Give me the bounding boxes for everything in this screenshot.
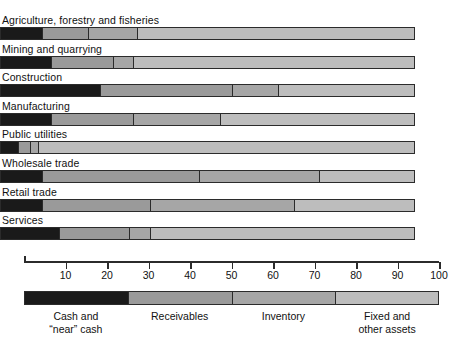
- bar-category-label: Services: [2, 214, 43, 226]
- legend-label-line1: Fixed and: [359, 310, 416, 323]
- x-axis-tick-label: 10: [60, 269, 72, 281]
- bar-segment-1: [42, 200, 149, 211]
- x-axis-tick-label: 40: [184, 269, 196, 281]
- legend-label-2: Inventory: [262, 310, 305, 323]
- bar-category-label: Retail trade: [2, 186, 57, 198]
- bar-row: [0, 141, 415, 154]
- bar-category-label: Manufacturing: [2, 100, 70, 112]
- bar-segment-3: [220, 114, 414, 125]
- bar-segment-1: [42, 28, 87, 39]
- bar-segment-2: [150, 200, 295, 211]
- bar-segment-0: [1, 114, 51, 125]
- bar-category-label: Agriculture, forestry and fisheries: [2, 14, 159, 26]
- x-axis-tick-label: 100: [430, 269, 448, 281]
- x-axis-tick: [107, 262, 109, 269]
- bar-category-label: Construction: [2, 71, 62, 83]
- bar-segment-3: [294, 200, 414, 211]
- bar-segment-0: [1, 28, 42, 39]
- bar-segment-0: [1, 85, 100, 96]
- bar-row: [0, 227, 415, 240]
- x-axis-tick-label: 20: [101, 269, 113, 281]
- bar-segment-1: [51, 114, 134, 125]
- bar-segment-2: [88, 28, 138, 39]
- bar-segment-3: [319, 171, 414, 182]
- bar-segment-0: [1, 171, 42, 182]
- bar-segment-2: [199, 171, 319, 182]
- bar-category-label: Wholesale trade: [2, 157, 79, 169]
- x-axis-tick: [232, 262, 234, 269]
- x-axis-tick: [439, 262, 441, 269]
- legend-swatch-0: [25, 292, 128, 304]
- legend-label-line1: Cash and: [49, 310, 102, 323]
- x-axis-tick-label: 90: [392, 269, 404, 281]
- bar-row: [0, 199, 415, 212]
- x-axis-tick-label: 70: [309, 269, 321, 281]
- legend-label-line1: Inventory: [262, 310, 305, 323]
- bar-segment-1: [42, 171, 199, 182]
- bar-category-label: Public utilities: [2, 128, 67, 140]
- bar-segment-2: [113, 57, 134, 68]
- legend-bar: [24, 291, 439, 305]
- bar-segment-1: [51, 57, 113, 68]
- bar-segment-0: [1, 228, 59, 239]
- legend-swatch-3: [335, 292, 438, 304]
- bar-segment-0: [1, 200, 42, 211]
- legend-label-3: Fixed andother assets: [359, 310, 416, 335]
- bar-segment-1: [100, 85, 232, 96]
- x-axis-tick-label: 30: [143, 269, 155, 281]
- x-axis-tick: [273, 262, 275, 269]
- stacked-bar-chart: Agriculture, forestry and fisheriesMinin…: [0, 0, 471, 347]
- bar-segment-3: [278, 85, 414, 96]
- bar-row: [0, 113, 415, 126]
- x-axis-tick-label: 50: [226, 269, 238, 281]
- bar-row: [0, 84, 415, 97]
- x-axis-tick-label: 60: [267, 269, 279, 281]
- x-axis-tick: [190, 262, 192, 269]
- bar-segment-2: [133, 114, 220, 125]
- bar-segment-0: [1, 57, 51, 68]
- bar-segment-1: [18, 142, 30, 153]
- bar-segment-2: [30, 142, 38, 153]
- x-axis-tick-label: 80: [350, 269, 362, 281]
- bar-segment-1: [59, 228, 129, 239]
- x-axis-origin-cap: [24, 256, 26, 262]
- bar-row: [0, 56, 415, 69]
- legend-swatch-1: [128, 292, 231, 304]
- bar-row: [0, 27, 415, 40]
- legend-swatch-2: [232, 292, 335, 304]
- x-axis-tick: [149, 262, 151, 269]
- x-axis-tick: [66, 262, 68, 269]
- x-axis-tick: [398, 262, 400, 269]
- bar-segment-3: [38, 142, 414, 153]
- legend-label-line2: other assets: [359, 323, 416, 336]
- legend-label-0: Cash and“near” cash: [49, 310, 102, 335]
- bar-row: [0, 170, 415, 183]
- x-axis-tick: [315, 262, 317, 269]
- legend-label-line1: Receivables: [151, 310, 208, 323]
- bar-segment-2: [232, 85, 277, 96]
- x-axis-tick: [356, 262, 358, 269]
- bar-segment-3: [150, 228, 414, 239]
- bar-category-label: Mining and quarrying: [2, 43, 102, 55]
- bar-segment-3: [133, 57, 414, 68]
- legend-label-line2: “near” cash: [49, 323, 102, 336]
- bar-segment-3: [137, 28, 414, 39]
- legend-label-1: Receivables: [151, 310, 208, 323]
- bar-segment-0: [1, 142, 18, 153]
- bar-segment-2: [129, 228, 150, 239]
